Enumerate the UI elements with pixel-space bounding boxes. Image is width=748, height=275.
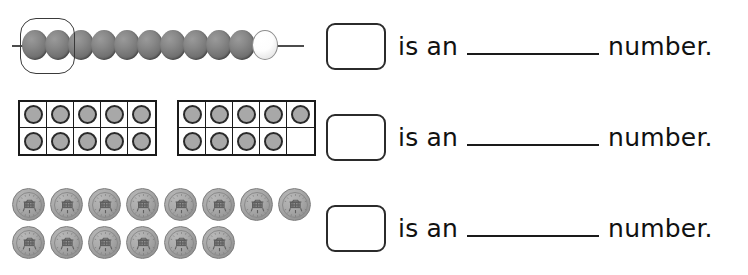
ten-frame-2 [177, 100, 316, 156]
sentence-row-3: is an number. [398, 214, 713, 243]
counter-disc [105, 105, 124, 124]
sentence-text-after-row-2: number. [608, 123, 713, 152]
manipulative-area-coins [0, 182, 318, 275]
sentence-text-before-row-3: is an [398, 214, 458, 243]
coin-icon [240, 188, 273, 221]
coin-icon [202, 188, 235, 221]
sentence-text-after-row-1: number. [608, 32, 713, 61]
manipulative-area-bead-string [0, 0, 318, 92]
counter-disc [210, 105, 229, 124]
ten-frame-cell-filled [233, 102, 260, 128]
ten-frame-cell-filled [128, 102, 155, 128]
counter-disc [24, 105, 43, 124]
worksheet-row-ten-frames: is an number. [0, 92, 748, 182]
sentence-text-after-row-3: number. [608, 214, 713, 243]
worksheet-page: is an number. is an number. is [0, 0, 748, 275]
coin-icon [164, 188, 197, 221]
counter-disc [264, 132, 283, 151]
ten-frame-cell-filled [206, 102, 233, 128]
ten-frame-cell-filled [74, 128, 101, 154]
prompt-bead-string: is an number. [318, 0, 748, 92]
ten-frame-cell-filled [101, 128, 128, 154]
coin-icon [88, 188, 121, 221]
coin-group [12, 188, 312, 264]
answer-blank-row-2[interactable] [467, 144, 599, 146]
counter-disc [264, 105, 283, 124]
coin-icon [164, 226, 197, 259]
sentence-text-before-row-2: is an [398, 123, 458, 152]
counter-disc [237, 105, 256, 124]
counter-disc [132, 132, 151, 151]
coin-icon [50, 226, 83, 259]
ten-frame-cell-filled [260, 128, 287, 154]
prompt-coins: is an number. [318, 182, 748, 275]
coin-row-1 [12, 188, 312, 221]
coin-icon [50, 188, 83, 221]
counter-disc [237, 132, 256, 151]
counter-disc [78, 132, 97, 151]
counter-disc [51, 105, 70, 124]
counter-disc [24, 132, 43, 151]
coin-icon [12, 188, 45, 221]
ten-frame-cell-filled [20, 102, 47, 128]
ten-frame-cell-filled [74, 102, 101, 128]
answer-box-row-3[interactable] [326, 205, 386, 252]
ten-frame-cell-filled [206, 128, 233, 154]
bead-wire-right [274, 45, 304, 47]
ten-frame-cell-filled [179, 102, 206, 128]
manipulative-area-ten-frames [0, 92, 318, 182]
coin-icon [278, 188, 311, 221]
ten-frame-cell-filled [287, 102, 314, 128]
answer-blank-row-1[interactable] [467, 53, 599, 55]
ten-frame-cell-filled [20, 128, 47, 154]
coin-icon [126, 226, 159, 259]
bead-white [252, 30, 278, 60]
prompt-ten-frames: is an number. [318, 92, 748, 182]
ten-frame-1 [18, 100, 157, 156]
counter-disc [105, 132, 124, 151]
sentence-text-before-row-1: is an [398, 32, 458, 61]
coin-icon [12, 226, 45, 259]
coin-row-2 [12, 226, 312, 259]
counter-disc [291, 105, 310, 124]
sentence-row-1: is an number. [398, 32, 713, 61]
coin-icon [126, 188, 159, 221]
counter-disc [132, 105, 151, 124]
coin-icon [88, 226, 121, 259]
counter-disc [78, 105, 97, 124]
worksheet-row-coins: is an number. [0, 182, 748, 275]
ten-frame-cell-filled [101, 102, 128, 128]
ten-frame-cell-empty [287, 128, 314, 154]
counter-disc [51, 132, 70, 151]
answer-blank-row-3[interactable] [467, 235, 599, 237]
sentence-row-2: is an number. [398, 123, 713, 152]
ten-frame-group [18, 100, 316, 156]
answer-box-row-2[interactable] [326, 114, 386, 161]
ten-frame-cell-filled [47, 102, 74, 128]
counter-disc [183, 132, 202, 151]
counter-disc [183, 105, 202, 124]
bead-string [12, 30, 302, 62]
worksheet-row-bead-string: is an number. [0, 0, 748, 92]
coin-icon [202, 226, 235, 259]
answer-box-row-1[interactable] [326, 23, 386, 70]
ten-frame-cell-filled [260, 102, 287, 128]
ten-frame-cell-filled [233, 128, 260, 154]
ten-frame-cell-filled [128, 128, 155, 154]
counter-disc [210, 132, 229, 151]
ten-frame-cell-filled [47, 128, 74, 154]
ten-frame-cell-filled [179, 128, 206, 154]
bead-circle-annotation [20, 18, 75, 74]
